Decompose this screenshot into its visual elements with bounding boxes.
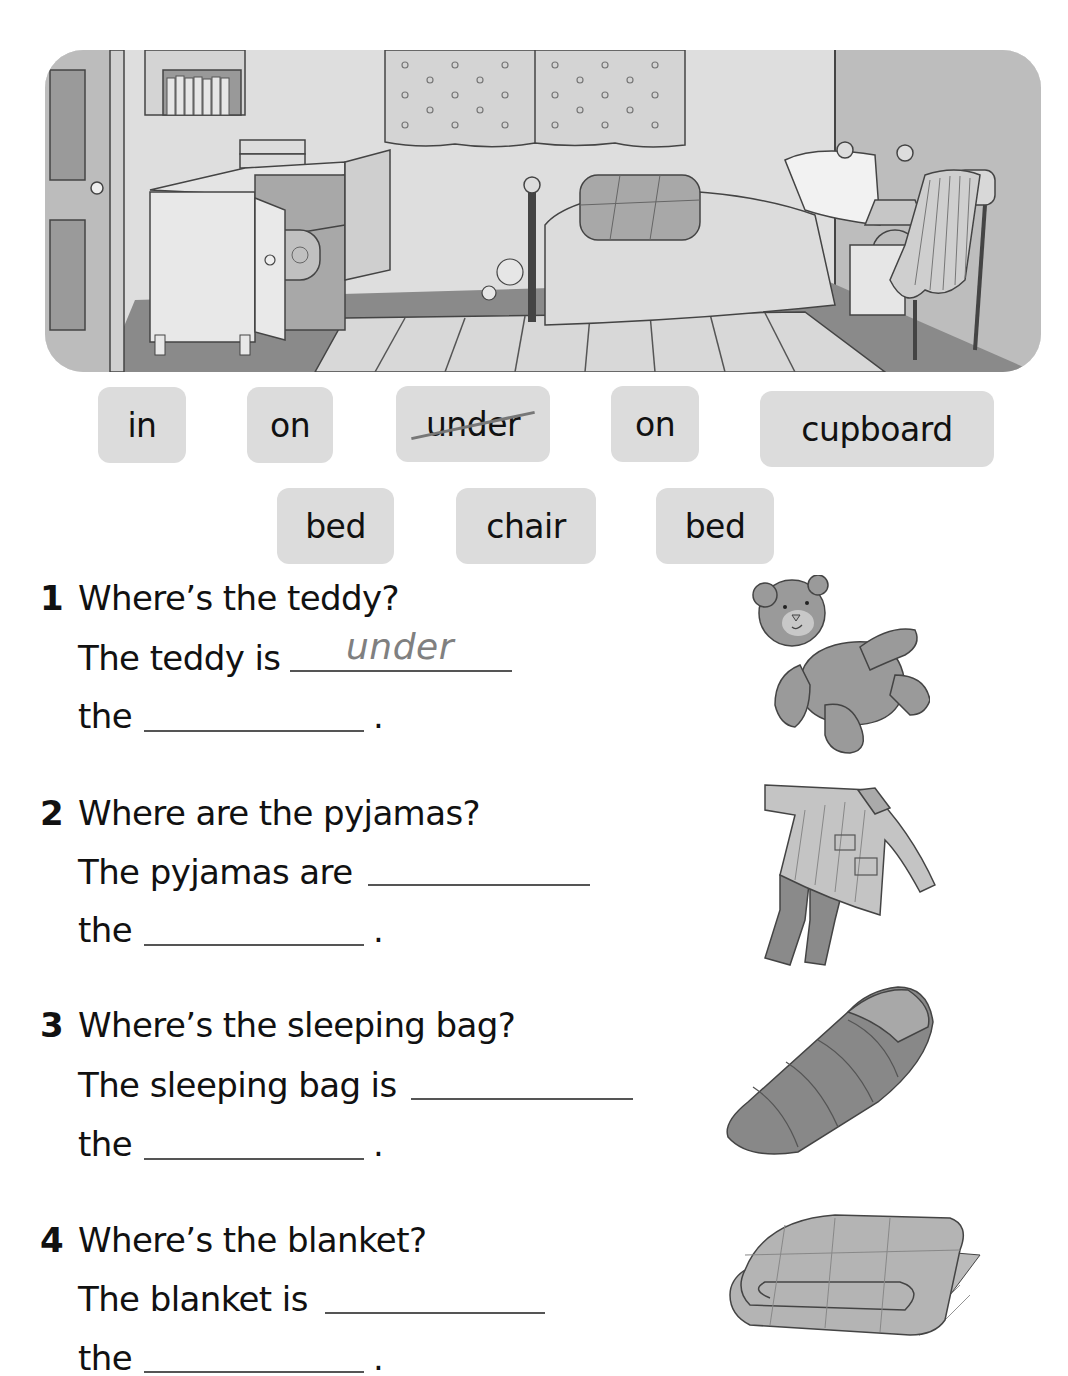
word-chip-on[interactable]: on: [247, 387, 333, 463]
answer-blank-3a[interactable]: [411, 1098, 633, 1100]
answer-line-1-label: The blanket is: [78, 1279, 308, 1319]
question-4-prompt: 4Where’s the blanket?: [40, 1220, 426, 1260]
answer-blank-3b[interactable]: [144, 1158, 364, 1160]
word-chip-label: bed: [305, 507, 366, 546]
answer-blank-2a[interactable]: [368, 884, 590, 886]
answer-line-1-label: The pyjamas are: [78, 852, 353, 892]
word-chip-in[interactable]: in: [98, 387, 186, 463]
question-number: 1: [40, 578, 78, 618]
pyjamas-icon: [750, 780, 940, 970]
period: .: [373, 696, 384, 736]
answer-blank-2b[interactable]: [144, 944, 364, 946]
answer-line-2-label: the: [78, 910, 132, 950]
question-text: Where’s the blanket?: [78, 1220, 426, 1260]
word-chip-bed[interactable]: bed: [277, 488, 394, 564]
word-chip-bed-2[interactable]: bed: [656, 488, 774, 564]
bedroom-illustration: [45, 50, 1041, 372]
word-chip-label: on: [270, 406, 310, 445]
word-chip-label: cupboard: [801, 410, 952, 449]
answer-line-2-label: the: [78, 696, 132, 736]
word-chip-label: chair: [486, 507, 566, 546]
period: .: [373, 910, 384, 950]
answer-line-2-label: the: [78, 1338, 132, 1376]
word-chip-label: on: [635, 405, 675, 444]
question-number: 3: [40, 1005, 78, 1045]
word-chip-label: bed: [685, 507, 746, 546]
bedroom-scene-icon: [45, 50, 1041, 372]
teddy-bear-icon: [740, 575, 930, 755]
word-chip-label: in: [127, 406, 156, 445]
question-number: 2: [40, 793, 78, 833]
word-chip-under-crossed[interactable]: under: [396, 386, 550, 462]
question-text: Where are the pyjamas?: [78, 793, 480, 833]
answer-line-1-label: The teddy is: [78, 638, 280, 678]
question-2-prompt: 2Where are the pyjamas?: [40, 793, 480, 833]
word-chip-chair[interactable]: chair: [456, 488, 596, 564]
question-number: 4: [40, 1220, 78, 1260]
answer-line-2-label: the: [78, 1124, 132, 1164]
question-text: Where’s the teddy?: [78, 578, 399, 618]
question-text: Where’s the sleeping bag?: [78, 1005, 515, 1045]
word-chip-cupboard[interactable]: cupboard: [760, 391, 994, 467]
answer-line-1-label: The sleeping bag is: [78, 1065, 397, 1105]
answer-blank-1b[interactable]: [144, 730, 364, 732]
answer-blank-4a[interactable]: [325, 1312, 545, 1314]
filled-answer: under: [346, 626, 454, 667]
period: .: [373, 1338, 384, 1376]
blanket-icon: [725, 1210, 985, 1345]
word-chip-on-2[interactable]: on: [611, 386, 699, 462]
answer-blank-4b[interactable]: [144, 1371, 364, 1373]
question-1-prompt: 1Where’s the teddy?: [40, 578, 399, 618]
question-3-prompt: 3Where’s the sleeping bag?: [40, 1005, 515, 1045]
answer-blank-1a[interactable]: [290, 670, 512, 672]
period: .: [373, 1124, 384, 1164]
sleeping-bag-icon: [718, 982, 943, 1162]
